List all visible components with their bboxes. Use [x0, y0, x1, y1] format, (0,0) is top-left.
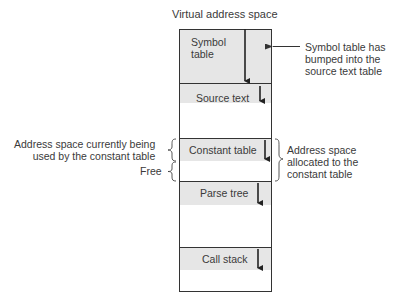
source-text-label: Source text [196, 92, 249, 104]
symbol-table-label: Symbol table [191, 36, 226, 60]
call-stack-label: Call stack [202, 253, 248, 265]
constant-used-note: Address space currently being used by th… [14, 138, 155, 162]
constant-allocated-note: Address space allocated to the constant … [287, 144, 358, 180]
parse-tree-label: Parse tree [200, 187, 248, 199]
constant-table-label: Constant table [189, 144, 257, 156]
free-label: Free [140, 165, 162, 177]
symbol-bumped-note: Symbol table has bumped into the source … [305, 41, 386, 77]
